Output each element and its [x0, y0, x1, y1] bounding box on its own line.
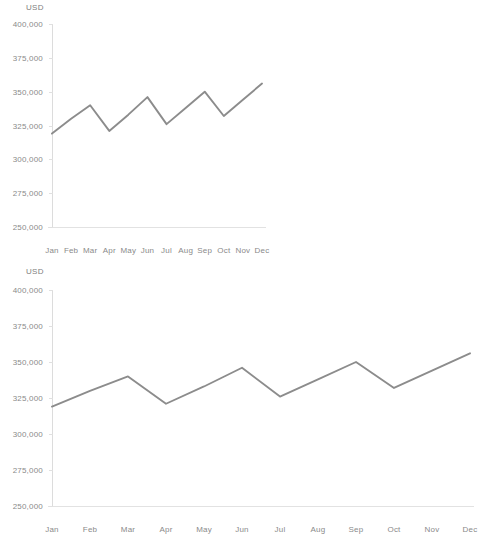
- line-chart-top: USD 400,000375,000350,000325,000300,0002…: [0, 0, 280, 258]
- plot-area-bottom: 400,000375,000350,000325,000300,000275,0…: [0, 278, 495, 523]
- y-axis-unit-label: USD: [26, 267, 44, 276]
- data-series-line: [0, 278, 495, 537]
- series-usd-polyline: [52, 84, 262, 134]
- line-chart-bottom: USD 400,000375,000350,000325,000300,0002…: [0, 262, 502, 537]
- plot-area-top: 400,000375,000350,000325,000300,000275,0…: [0, 14, 270, 244]
- y-axis-unit-label: USD: [26, 3, 44, 12]
- data-series-line: [0, 14, 270, 274]
- series-usd-polyline: [52, 353, 470, 406]
